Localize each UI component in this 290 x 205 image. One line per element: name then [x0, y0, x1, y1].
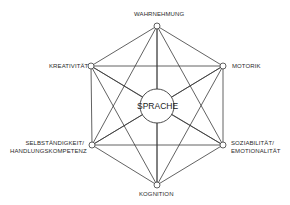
edge-soziabilitaet-kognition	[157, 145, 223, 185]
label-soziabilitaet-line1: SOZIABILITÄT/	[231, 140, 281, 148]
edge-wahrnehmung-motorik	[157, 26, 223, 66]
label-selbstaendigkeit: SELBSTÄNDIGKEIT/ HANDLUNGSKOMPETENZ	[10, 140, 84, 155]
edge-selbstaendigkeit-kreativitaet	[91, 66, 92, 145]
edge-kognition-selbstaendigkeit	[92, 145, 157, 185]
node-motorik	[220, 63, 226, 69]
node-selbstaendigkeit	[89, 142, 95, 148]
center-label-sprache: SPRACHE	[137, 101, 177, 111]
label-wahrnehmung: WAHRNEHMUNG	[134, 11, 184, 19]
label-soziabilitaet-line2: EMOTIONALITÄT	[231, 148, 281, 156]
node-wahrnehmung	[154, 23, 160, 29]
node-soziabilitaet	[220, 142, 226, 148]
node-kreativitaet	[88, 63, 94, 69]
label-selbstaendigkeit-line2: HANDLUNGSKOMPETENZ	[10, 148, 84, 156]
label-selbstaendigkeit-line1: SELBSTÄNDIGKEIT/	[10, 140, 84, 148]
label-motorik: MOTORIK	[232, 63, 261, 71]
edge-wahrnehmung-kreativitaet	[91, 26, 157, 66]
node-kognition	[154, 182, 160, 188]
label-kreativitaet: KREATIVITÄT	[49, 63, 88, 71]
label-kognition: KOGNITION	[139, 191, 174, 199]
label-soziabilitaet: SOZIABILITÄT/ EMOTIONALITÄT	[231, 140, 281, 155]
